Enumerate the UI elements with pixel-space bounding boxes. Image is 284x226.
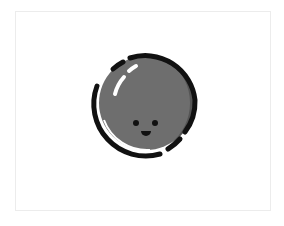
right-eye-icon (152, 120, 158, 126)
left-eye-icon (133, 120, 139, 126)
ball-illustration (0, 0, 284, 226)
